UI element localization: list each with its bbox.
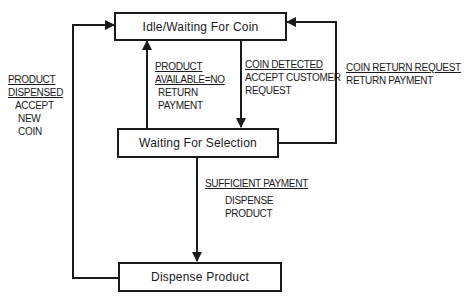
action-text: RETURN PAYMENT bbox=[346, 74, 461, 87]
action-text: RETURN bbox=[155, 86, 225, 99]
condition-text: COIN RETURN REQUEST bbox=[346, 61, 461, 74]
transition-label-product-unavailable: PRODUCT AVAILABLE=NO RETURN PAYMENT bbox=[155, 60, 225, 112]
state-dispense-product: Dispense Product bbox=[118, 262, 282, 292]
action-text: NEW bbox=[8, 112, 63, 125]
action-text: PAYMENT bbox=[155, 99, 225, 112]
condition-text: COIN DETECTED bbox=[245, 58, 341, 71]
action-text: ACCEPT CUSTOMER bbox=[245, 71, 341, 84]
condition-text: AVAILABLE=NO bbox=[155, 73, 225, 86]
action-text: COIN bbox=[8, 125, 63, 138]
state-label: Idle/Waiting For Coin bbox=[143, 20, 259, 34]
state-label: Waiting For Selection bbox=[139, 136, 257, 150]
transition-label-coin-detected: COIN DETECTED ACCEPT CUSTOMER REQUEST bbox=[245, 58, 341, 97]
arrow-dispense-to-idle bbox=[73, 25, 118, 278]
transition-label-coin-return: COIN RETURN REQUEST RETURN PAYMENT bbox=[346, 61, 461, 87]
action-text: REQUEST bbox=[245, 84, 341, 97]
action-text: ACCEPT bbox=[8, 99, 63, 112]
action-text: DISPENSE bbox=[205, 194, 308, 207]
condition-text: PRODUCT bbox=[155, 60, 225, 73]
action-text: PRODUCT bbox=[205, 207, 308, 220]
transition-label-product-dispensed: PRODUCT DISPENSED ACCEPT NEW COIN bbox=[8, 73, 63, 138]
condition-text: PRODUCT bbox=[8, 73, 63, 86]
state-label: Dispense Product bbox=[151, 270, 249, 284]
transition-label-sufficient-payment: SUFFICIENT PAYMENT DISPENSE PRODUCT bbox=[205, 177, 308, 220]
condition-text: SUFFICIENT PAYMENT bbox=[205, 177, 308, 190]
condition-text: DISPENSED bbox=[8, 86, 63, 99]
state-waiting-for-selection: Waiting For Selection bbox=[117, 128, 279, 158]
state-idle-waiting-for-coin: Idle/Waiting For Coin bbox=[114, 12, 287, 41]
